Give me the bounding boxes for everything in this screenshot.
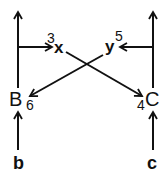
diagram: 3 x 5 y B 6 C 4 b c bbox=[0, 0, 168, 181]
node-c: c bbox=[147, 154, 157, 172]
label-4: 4 bbox=[137, 98, 145, 112]
node-C: C bbox=[145, 89, 159, 109]
label-6: 6 bbox=[26, 98, 34, 112]
node-b: b bbox=[13, 154, 24, 172]
edge-y-to-B bbox=[30, 55, 103, 96]
label-5: 5 bbox=[115, 29, 123, 43]
node-y: y bbox=[105, 38, 114, 55]
diagram-lines bbox=[0, 0, 168, 181]
node-B: B bbox=[9, 89, 22, 109]
edge-x-to-C bbox=[66, 52, 142, 96]
node-x: x bbox=[54, 39, 63, 56]
